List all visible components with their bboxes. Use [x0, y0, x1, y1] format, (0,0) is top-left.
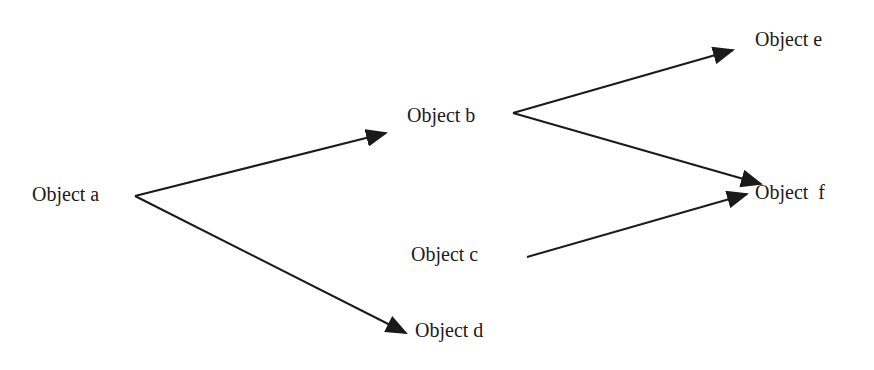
node-object-f: Object f [755, 182, 825, 202]
arrow-b-to-f [513, 113, 761, 184]
node-object-e: Object e [755, 29, 822, 49]
node-object-c: Object c [411, 244, 478, 264]
arrow-b-to-e [513, 50, 733, 113]
node-object-d: Object d [415, 320, 483, 340]
diagram-canvas: Object a Object b Object c Object d Obje… [0, 0, 874, 370]
arrow-c-to-f [527, 194, 747, 257]
arrow-a-to-d [135, 196, 406, 333]
node-object-a: Object a [32, 184, 99, 204]
node-object-b: Object b [407, 105, 475, 125]
arrow-a-to-b [135, 133, 386, 196]
edges-layer [0, 0, 874, 370]
